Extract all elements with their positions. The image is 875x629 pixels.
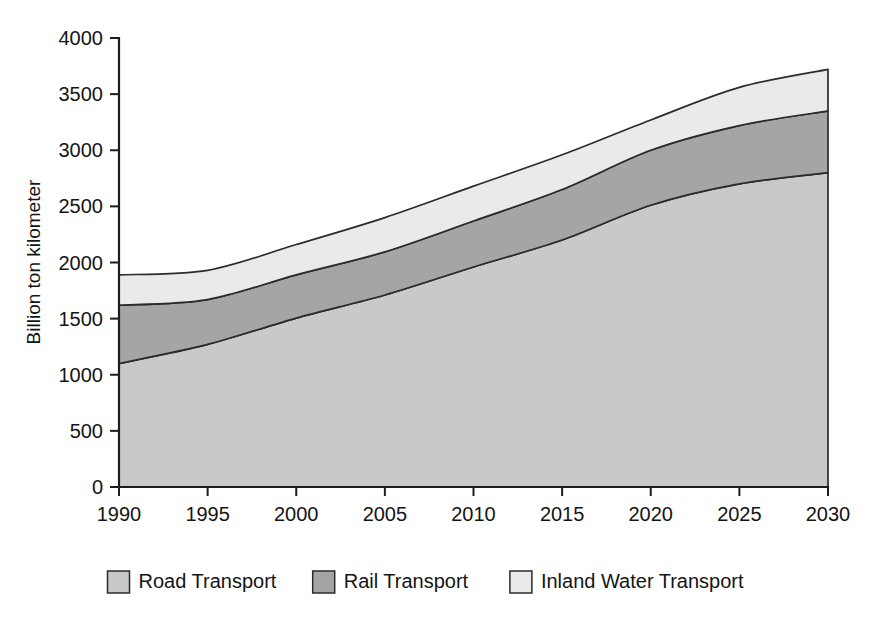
y-tick-label: 3500 (59, 83, 104, 105)
legend-swatch-rail-transport (313, 571, 335, 593)
chart-container: 05001000150020002500300035004000 1990199… (0, 0, 875, 629)
y-tick-label: 2500 (59, 195, 104, 217)
stacked-area-chart: 05001000150020002500300035004000 1990199… (0, 0, 875, 629)
chart-legend: Road TransportRail TransportInland Water… (108, 570, 745, 593)
y-tick-label: 3000 (59, 139, 104, 161)
y-tick-label: 500 (70, 420, 103, 442)
x-tick-label: 2020 (629, 503, 674, 525)
legend-swatch-inland-water-transport (510, 571, 532, 593)
x-tick-label: 2015 (540, 503, 585, 525)
legend-label-road-transport: Road Transport (139, 570, 277, 592)
x-tick-label: 1990 (97, 503, 142, 525)
x-tick-label: 2030 (806, 503, 851, 525)
legend-label-rail-transport: Rail Transport (344, 570, 469, 592)
x-tick-label: 2000 (274, 503, 319, 525)
x-tick-label: 1995 (185, 503, 230, 525)
legend-label-inland-water-transport: Inland Water Transport (541, 570, 744, 592)
y-tick-label: 1500 (59, 308, 104, 330)
y-tick-label: 4000 (59, 27, 104, 49)
y-tick-label: 0 (92, 476, 103, 498)
x-tick-label: 2010 (451, 503, 496, 525)
y-tick-label: 1000 (59, 364, 104, 386)
x-tick-label: 2005 (363, 503, 408, 525)
x-tick-label: 2025 (717, 503, 762, 525)
legend-swatch-road-transport (108, 571, 130, 593)
y-axis-title: Billion ton kilometer (23, 179, 44, 344)
y-tick-label: 2000 (59, 252, 104, 274)
